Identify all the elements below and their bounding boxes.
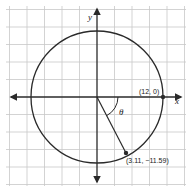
coordinate-plane: y x (12, 0) (3.11, −11.59) θ — [0, 0, 186, 186]
point-label-3-11: (3.11, −11.59) — [126, 157, 169, 165]
y-axis-label: y — [87, 12, 92, 22]
point-label-12-0: (12, 0) — [139, 88, 159, 96]
point-12-0 — [161, 95, 165, 99]
point-3-11 — [124, 151, 128, 155]
x-axis-label: x — [174, 96, 179, 106]
angle-arc — [107, 97, 118, 116]
radius-segment — [97, 97, 126, 153]
theta-label: θ — [119, 107, 124, 117]
